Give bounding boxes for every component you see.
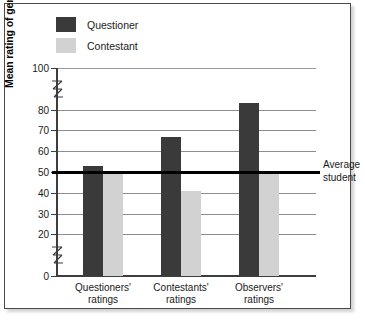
category-label-1-line1: Questioners' [63, 282, 143, 294]
y-tick-mark-0 [51, 276, 57, 277]
y-tick-label-50: 50 [38, 167, 49, 178]
legend-swatch-questioner [56, 17, 76, 32]
y-tick-mark-60 [51, 151, 57, 152]
y-tick-mark-20 [51, 234, 57, 235]
plot-area: 100807060504030200 [56, 68, 266, 276]
y-tick-label-20: 20 [38, 229, 49, 240]
axis-break-lower-icon [51, 246, 65, 264]
legend-swatch-contestant [56, 38, 76, 53]
legend-label-contestant: Contestant [87, 40, 138, 52]
bar-contestant-2 [181, 191, 201, 276]
y-axis-title: Mean rating of general knowledge [3, 0, 15, 88]
category-label-2-line1: Contestants' [141, 282, 221, 294]
category-label-1: Questioners'ratings [63, 282, 143, 306]
y-tick-mark-30 [51, 214, 57, 215]
chart-legend: Questioner Contestant [56, 14, 206, 56]
y-tick-label-80: 80 [38, 104, 49, 115]
legend-item-contestant: Contestant [56, 35, 206, 56]
y-tick-mark-80 [51, 110, 57, 111]
legend-label-questioner: Questioner [87, 19, 138, 31]
bar-questioner-2 [161, 137, 181, 276]
bar-questioner-3 [239, 103, 259, 276]
gridline-60 [56, 151, 316, 152]
y-tick-label-60: 60 [38, 146, 49, 157]
y-tick-label-0: 0 [43, 271, 49, 282]
legend-item-questioner: Questioner [56, 14, 206, 35]
category-label-2-line2: ratings [141, 294, 221, 306]
average-student-line2: student [323, 172, 360, 185]
y-tick-mark-100 [51, 68, 57, 69]
y-tick-label-100: 100 [32, 63, 49, 74]
y-tick-mark-70 [51, 130, 57, 131]
axis-break-upper-icon [51, 80, 65, 98]
y-tick-mark-40 [51, 193, 57, 194]
y-tick-label-30: 30 [38, 208, 49, 219]
bar-contestant-1 [103, 172, 123, 276]
category-label-3: Observers'ratings [219, 282, 299, 306]
category-label-3-line1: Observers' [219, 282, 299, 294]
category-label-1-line2: ratings [63, 294, 143, 306]
plot-inner: 100807060504030200 [56, 68, 266, 276]
bar-contestant-3 [259, 172, 279, 276]
y-tick-label-40: 40 [38, 187, 49, 198]
y-tick-label-70: 70 [38, 125, 49, 136]
gridline-100 [56, 68, 316, 69]
category-label-3-line2: ratings [219, 294, 299, 306]
average-student-line1: Average [323, 159, 360, 172]
average-student-line [52, 171, 320, 174]
category-label-2: Contestants'ratings [141, 282, 221, 306]
gridline-80 [56, 110, 316, 111]
bar-questioner-1 [83, 166, 103, 276]
gridline-70 [56, 130, 316, 131]
chart-figure-frame: Questioner Contestant Mean rating of gen… [4, 3, 351, 309]
average-student-annotation: Average student [323, 159, 360, 184]
